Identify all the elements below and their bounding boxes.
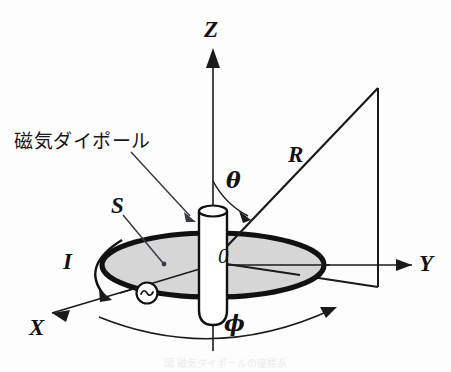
ac-source-symbol: [137, 283, 158, 304]
z-axis-label: Z: [204, 18, 218, 41]
z-axis-arrowhead: [206, 48, 220, 68]
dipole-leader-line: [131, 152, 190, 216]
theta-arc-arrowhead: [239, 211, 251, 223]
dipole-leader-arrowhead: [184, 212, 196, 222]
phi-arc-arrowhead: [320, 307, 337, 318]
dipole-annotation-leader: [131, 152, 196, 222]
origin-label: 0: [218, 246, 229, 267]
current-label: I: [63, 250, 72, 273]
faint-caption: 図 磁気ダイポールの座標系: [0, 355, 451, 370]
x-axis-label: X: [29, 316, 44, 339]
dipole-rod-body: [199, 211, 227, 325]
dipole-annotation-label: 磁気ダイポール: [14, 126, 151, 153]
dipole-rod-top: [199, 206, 227, 217]
figure-root: Z Y X 0 R θ ϕ S I 磁気ダイポール 図 磁気ダイポールの座標系: [0, 0, 451, 372]
y-axis-label: Y: [419, 252, 433, 275]
radius-label: R: [288, 143, 303, 166]
theta-label: θ: [226, 169, 241, 191]
y-axis-arrowhead: [396, 259, 412, 271]
area-leader-dot: [162, 262, 167, 267]
phi-label: ϕ: [224, 312, 245, 334]
area-label: S: [111, 194, 124, 217]
